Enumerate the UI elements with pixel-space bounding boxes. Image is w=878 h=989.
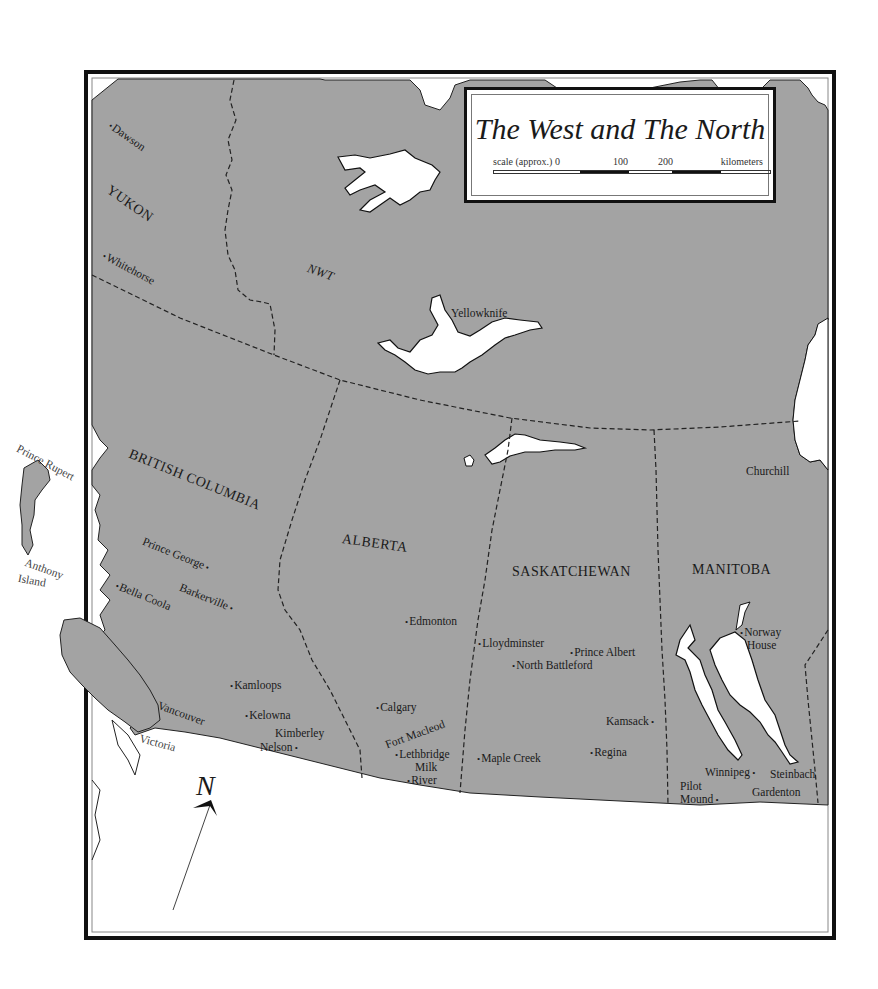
place-lethbridge: Lethbridge (395, 749, 450, 761)
place-prince-albert: Prince Albert (570, 647, 635, 659)
place-gardenton: Gardenton (752, 787, 801, 799)
place-kimberley: Kimberley (275, 728, 324, 740)
place-pilot-mound-line2: Mound (680, 794, 719, 806)
scale-unit: kilometers (721, 156, 763, 167)
scale-tick-200: 200 (658, 156, 673, 167)
scale-prefix: scale (approx.) 0 (493, 156, 560, 167)
place-north-battleford: North Battleford (512, 660, 592, 672)
scale-segment (629, 171, 672, 173)
place-churchill: Churchill (746, 466, 789, 478)
label-manitoba: MANITOBA (692, 563, 771, 577)
island-haida-gwaii (20, 460, 50, 555)
place-steinbach: Steinbach (770, 769, 815, 781)
place-kelowna: Kelowna (245, 710, 291, 722)
scale-segment (672, 171, 721, 173)
place-pilot-mound-line1: Pilot (680, 781, 702, 793)
place-kamloops: Kamloops (230, 680, 281, 692)
place-calgary: Calgary (376, 702, 417, 714)
scale-segment (494, 171, 580, 173)
place-milk-river-line1: Milk (415, 762, 437, 774)
place-nelson: Nelson (260, 742, 298, 754)
label-saskatchewan: SASKATCHEWAN (512, 565, 631, 579)
place-kamsack: Kamsack (606, 716, 654, 728)
scale-segment (721, 171, 770, 173)
place-edmonton: Edmonton (405, 616, 457, 628)
place-lloydminster: Lloydminster (478, 638, 544, 650)
scale-tick-100: 100 (613, 156, 628, 167)
scale-bar (493, 170, 771, 174)
scale-segment (580, 171, 629, 173)
place-regina: Regina (590, 747, 627, 759)
title-legend-box: The West and The North scale (approx.) 0… (464, 87, 776, 203)
place-maple-creek: Maple Creek (477, 753, 541, 765)
place-yellowknife: Yellowknife (451, 308, 507, 320)
place-norway-house-line2: House (747, 640, 776, 652)
place-milk-river-line2: River (407, 775, 437, 787)
north-arrow-label: N (196, 770, 215, 802)
place-norway-house-line1: Norway (740, 627, 781, 639)
map-title: The West and The North (467, 112, 773, 146)
place-winnipeg: Winnipeg (705, 767, 755, 779)
